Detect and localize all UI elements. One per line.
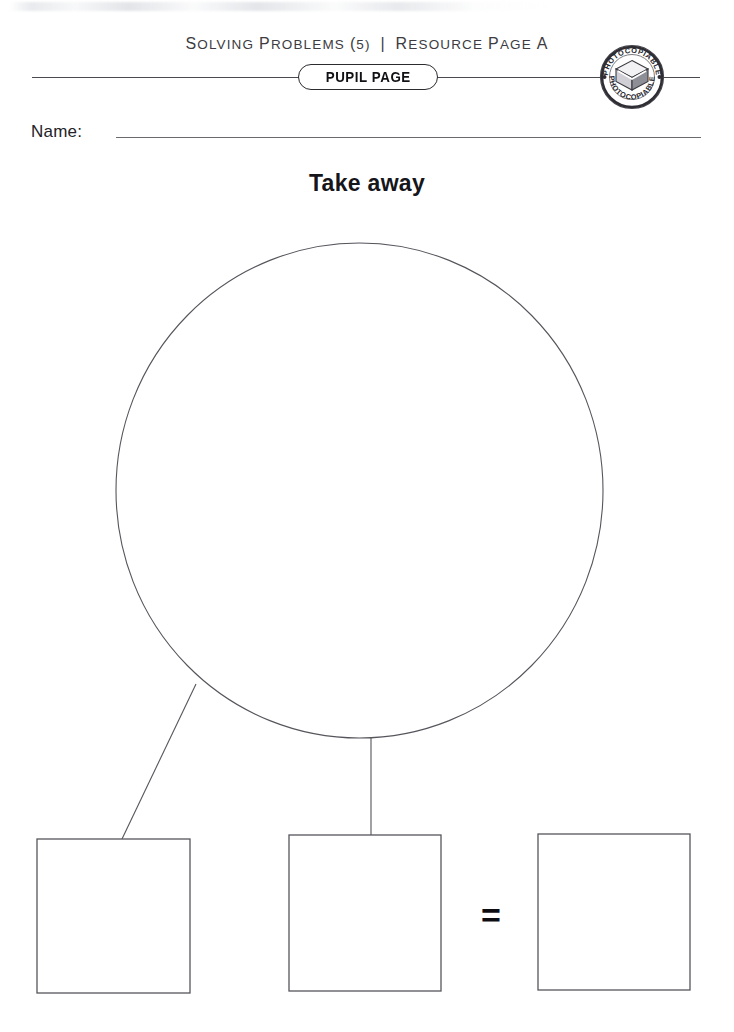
answer-box-3[interactable] [538,834,690,990]
equals-sign: = [474,898,508,932]
take-away-diagram [0,0,734,1032]
answer-box-2[interactable] [289,835,441,991]
total-circle[interactable] [116,243,603,738]
connector-circle-to-box-1 [122,684,196,839]
worksheet-page: SOLVING PROBLEMS (5) | RESOURCE PAGE A P… [0,0,734,1032]
answer-box-1[interactable] [37,839,190,993]
